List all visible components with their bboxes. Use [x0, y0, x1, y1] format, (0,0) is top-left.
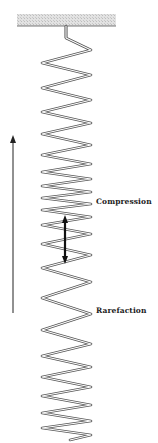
spring-coil: [42, 26, 91, 440]
spring-wave-diagram: [0, 0, 158, 443]
ceiling-support: [17, 14, 116, 26]
propagation-direction-arrow-icon: [10, 135, 16, 313]
compression-label: Compression: [96, 197, 152, 206]
rarefaction-label: Rarefaction: [96, 306, 147, 315]
